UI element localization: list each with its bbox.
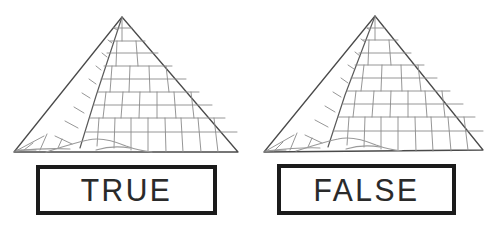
pyramid-illustration-true	[0, 0, 245, 160]
false-panel: FALSE	[244, 0, 489, 246]
true-label-text: TRUE	[81, 174, 173, 206]
pyramid-icon	[244, 0, 489, 160]
pyramid-icon	[0, 0, 245, 160]
false-label-box[interactable]: FALSE	[277, 164, 456, 215]
true-label-box[interactable]: TRUE	[36, 165, 217, 215]
figure-root: TRUE	[0, 0, 489, 246]
pyramid-illustration-false	[244, 0, 489, 160]
true-panel: TRUE	[0, 0, 245, 246]
false-label-text: FALSE	[314, 174, 420, 206]
